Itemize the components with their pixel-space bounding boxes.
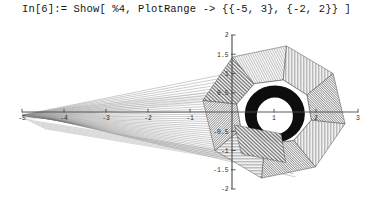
- notebook-input-line: In[6]:= Show[ %4, PlotRange -> {{-5, 3},…: [22, 3, 351, 15]
- y-tick-label: -1.5: [213, 167, 229, 174]
- x-tick-label: 1: [272, 115, 276, 122]
- x-tick-label: -2: [144, 115, 152, 122]
- graphics-cell: -5-4-3-2-112321.510.5-0.5-1-1.5-2: [0, 26, 370, 218]
- x-tick-label: -1: [186, 115, 194, 122]
- y-tick-label: 0.5: [217, 90, 229, 97]
- y-tick-label: 2: [225, 32, 229, 39]
- y-tick-label: -1: [221, 148, 229, 155]
- y-tick-label: -2: [221, 186, 229, 193]
- x-tick-label: 2: [314, 115, 318, 122]
- x-tick-label: -3: [102, 115, 110, 122]
- y-tick-label: 1: [225, 71, 229, 78]
- y-tick-label: -0.5: [213, 129, 229, 136]
- y-tick-label: 1.5: [217, 52, 229, 59]
- notebook-output-cell: In[6]:= Show[ %4, PlotRange -> {{-5, 3},…: [0, 0, 370, 218]
- x-tick-label: -4: [60, 115, 68, 122]
- x-tick-label: -5: [18, 115, 26, 122]
- x-tick-label: 3: [356, 115, 360, 122]
- plot-graphic: -5-4-3-2-112321.510.5-0.5-1-1.5-2: [0, 26, 370, 218]
